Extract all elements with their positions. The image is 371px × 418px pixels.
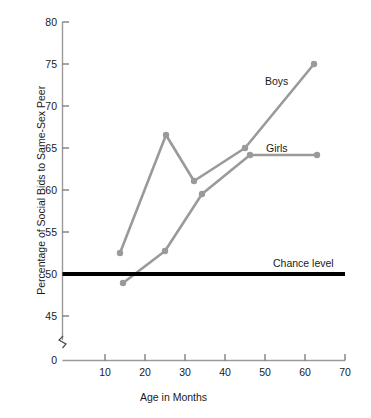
x-tick-label-50: 50 <box>253 367 277 378</box>
x-tick-label-10: 10 <box>93 367 117 378</box>
x-tick-label-60: 60 <box>293 367 317 378</box>
series-label-boys: Boys <box>265 76 288 87</box>
series-girls-point <box>314 152 320 158</box>
y-origin-label: 0 <box>35 355 57 366</box>
series-girls-point <box>247 152 253 158</box>
series-boys <box>117 61 317 256</box>
series-boys-point <box>117 250 123 256</box>
series-girls-point <box>199 191 205 197</box>
series-boys-point <box>242 145 248 151</box>
y-tick-label-45: 45 <box>35 311 57 322</box>
y-tick-label-80: 80 <box>35 17 57 28</box>
series-boys-point <box>191 178 197 184</box>
x-axis-label: Age in Months <box>140 392 207 403</box>
series-boys-point <box>311 61 317 67</box>
x-tick-label-30: 30 <box>173 367 197 378</box>
x-axis-ticks <box>105 354 345 361</box>
series-label-girls: Girls <box>266 143 288 154</box>
y-tick-label-75: 75 <box>35 59 57 70</box>
x-tick-label-70: 70 <box>333 367 357 378</box>
chance-level-label: Chance level <box>273 258 334 269</box>
x-tick-label-20: 20 <box>133 367 157 378</box>
series-boys-line <box>120 64 314 253</box>
y-axis-label: Percentage of Social Bids to Same-Sex Pe… <box>36 80 47 300</box>
series-boys-point <box>163 132 169 138</box>
series-girls-point <box>162 248 168 254</box>
chart-figure: 80 75 70 65 60 55 50 45 0 10 20 30 40 50… <box>0 0 371 418</box>
x-tick-label-40: 40 <box>213 367 237 378</box>
series-girls-point <box>120 280 126 286</box>
y-axis-ticks <box>63 22 70 316</box>
